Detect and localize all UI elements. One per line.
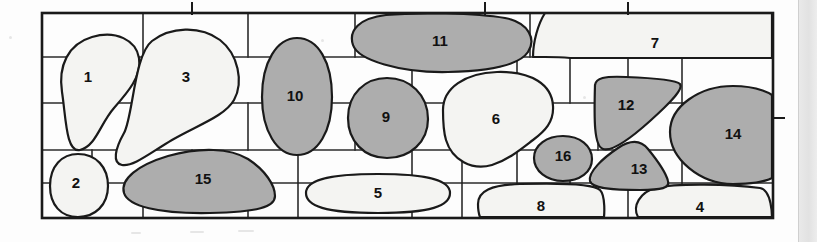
blob-label-15: 15 — [195, 170, 212, 187]
scan-speck — [131, 232, 141, 234]
blob-label-13: 13 — [631, 160, 648, 177]
scan-speck — [9, 36, 12, 39]
blob-label-16: 16 — [555, 147, 572, 164]
scan-speck — [583, 96, 586, 99]
blob-label-8: 8 — [537, 197, 545, 214]
scan-speck — [190, 231, 204, 233]
blob-label-14: 14 — [725, 125, 742, 142]
scan-speck — [321, 39, 324, 42]
page-gutter-band — [798, 0, 817, 242]
blob-12[interactable] — [595, 77, 681, 150]
blob-label-9: 9 — [382, 108, 390, 125]
blob-label-10: 10 — [287, 87, 304, 104]
scan-speck — [238, 230, 254, 232]
blob-label-3: 3 — [182, 68, 190, 85]
blob-label-5: 5 — [374, 184, 382, 201]
blob-label-11: 11 — [432, 32, 448, 49]
blob-14[interactable] — [670, 86, 772, 184]
blob-label-7: 7 — [651, 34, 659, 51]
blob-label-1: 1 — [84, 68, 92, 85]
blob-shapes — [50, 13, 772, 217]
blob-label-6: 6 — [492, 110, 500, 127]
blob-label-12: 12 — [618, 96, 635, 113]
blob-label-2: 2 — [72, 174, 80, 191]
blob-label-4: 4 — [696, 198, 705, 215]
